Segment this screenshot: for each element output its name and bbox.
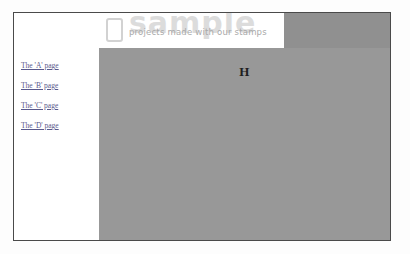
- content-heading-letter: H: [99, 64, 390, 80]
- list-item: The 'D' page: [21, 114, 99, 132]
- site-banner: sample projects made with our stamps: [14, 13, 390, 48]
- main-content-panel: H: [99, 48, 390, 240]
- list-item: The 'C' page: [21, 94, 99, 112]
- banner-branding-area: sample projects made with our stamps: [99, 13, 284, 48]
- page-body: Links The 'A' page The 'B' page The 'C' …: [14, 48, 390, 240]
- links-list: The 'A' page The 'B' page The 'C' page T…: [21, 54, 99, 132]
- sidebar-link-b[interactable]: The 'B' page: [21, 80, 58, 91]
- screenshot-canvas: sample projects made with our stamps Lin…: [0, 0, 410, 254]
- rounded-card-outline-icon: [106, 18, 123, 42]
- links-sidebar: Links The 'A' page The 'B' page The 'C' …: [14, 48, 99, 240]
- banner-right-block: [284, 13, 390, 48]
- sidebar-link-a[interactable]: The 'A' page: [21, 60, 59, 71]
- list-item: The 'A' page: [21, 54, 99, 72]
- banner-tagline: projects made with our stamps: [129, 27, 267, 37]
- list-item: The 'B' page: [21, 74, 99, 92]
- sidebar-link-c[interactable]: The 'C' page: [21, 100, 58, 111]
- web-page-frame: sample projects made with our stamps Lin…: [13, 12, 391, 241]
- banner-left-gutter: [14, 13, 99, 48]
- sidebar-link-d[interactable]: The 'D' page: [21, 120, 59, 131]
